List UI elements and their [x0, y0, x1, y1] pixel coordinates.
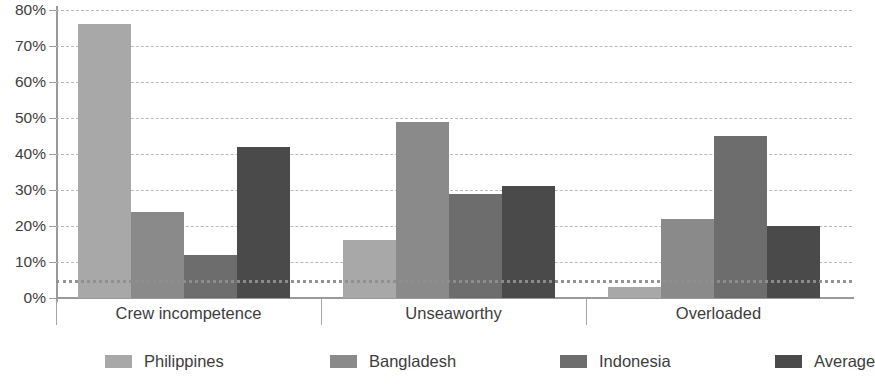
bar: [396, 122, 449, 298]
x-axis-category-label: Overloaded: [586, 304, 851, 323]
legend: PhilippinesBangladeshIndonesiaAverage: [0, 352, 860, 376]
y-axis-tick-label: 40%: [15, 145, 46, 163]
bar: [608, 287, 661, 298]
legend-label: Bangladesh: [369, 352, 456, 371]
gridline: [56, 82, 852, 83]
bar: [767, 226, 820, 298]
y-axis-tick-label: 60%: [15, 73, 46, 91]
y-axis-tick-mark: [49, 10, 56, 11]
bar: [184, 255, 237, 298]
legend-label: Average: [814, 352, 875, 371]
y-axis-tick-label: 30%: [15, 181, 46, 199]
gridline: [56, 46, 852, 47]
legend-swatch-icon: [105, 355, 132, 368]
y-axis-tick-mark: [49, 190, 56, 191]
x-axis-category-label: Unseaworthy: [321, 304, 586, 323]
y-axis-tick-label: 80%: [15, 1, 46, 19]
legend-item[interactable]: Philippines: [105, 352, 224, 371]
legend-swatch-icon: [330, 355, 357, 368]
bar: [714, 136, 767, 298]
legend-label: Philippines: [144, 352, 224, 371]
x-axis-category-label: Crew incompetence: [56, 304, 321, 323]
y-axis-tick-label: 70%: [15, 37, 46, 55]
y-axis-tick-mark: [49, 154, 56, 155]
y-axis-tick-mark: [49, 118, 56, 119]
legend-item[interactable]: Indonesia: [560, 352, 671, 371]
gridline: [56, 118, 852, 119]
gridline: [56, 10, 852, 11]
x-axis-separator: [586, 299, 587, 325]
y-axis-tick-label: 10%: [15, 253, 46, 271]
legend-item[interactable]: Bangladesh: [330, 352, 456, 371]
y-axis-tick-mark: [49, 82, 56, 83]
y-axis-tick-mark: [49, 262, 56, 263]
y-axis-tick-mark: [49, 298, 56, 299]
bar: [237, 147, 290, 298]
legend-swatch-icon: [560, 355, 587, 368]
bar: [131, 212, 184, 298]
y-axis-tick-label: 20%: [15, 217, 46, 235]
y-axis-tick-mark: [49, 46, 56, 47]
x-axis-separator: [56, 299, 57, 325]
x-axis-separator: [321, 299, 322, 325]
legend-label: Indonesia: [599, 352, 671, 371]
legend-item[interactable]: Average: [775, 352, 875, 371]
bar: [661, 219, 714, 298]
reference-line: [56, 280, 852, 283]
y-axis-tick-label: 0%: [24, 289, 46, 307]
plot-area: 80%70%60%50%40%30%20%10%0%: [56, 10, 852, 298]
y-axis-tick-label: 50%: [15, 109, 46, 127]
bar: [78, 24, 131, 298]
legend-swatch-icon: [775, 355, 802, 368]
bar: [343, 240, 396, 298]
y-axis-tick-mark: [49, 226, 56, 227]
